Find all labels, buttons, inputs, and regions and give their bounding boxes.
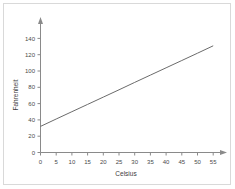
y-tick-label: 140 <box>25 36 36 42</box>
y-axis-arrow-icon <box>38 17 43 24</box>
y-tick-label: 20 <box>28 133 35 139</box>
x-axis <box>41 150 228 155</box>
y-tick-label: 40 <box>28 117 35 123</box>
x-tick-label: 5 <box>55 159 59 165</box>
y-tick-labels: 0 20 40 60 80 100 120 140 <box>25 36 36 156</box>
y-tick-label: 60 <box>28 101 35 107</box>
x-tick-label: 35 <box>147 159 154 165</box>
y-tick-label: 80 <box>28 84 35 90</box>
x-tick-label: 30 <box>131 159 138 165</box>
x-tick-label: 25 <box>116 159 123 165</box>
y-tick-label: 100 <box>25 68 36 74</box>
x-axis-arrow-icon <box>220 150 227 155</box>
y-axis <box>38 17 43 153</box>
y-axis-title: Fahrenheit <box>12 79 19 110</box>
x-tick-label: 40 <box>163 159 170 165</box>
x-tick-label: 0 <box>39 159 43 165</box>
x-tick-label: 55 <box>210 159 217 165</box>
x-tick-label: 20 <box>100 159 107 165</box>
x-tick-label: 50 <box>194 159 201 165</box>
series-line-celsius-to-fahrenheit <box>41 46 214 127</box>
x-axis-title: Celsius <box>115 170 137 177</box>
y-tick-label: 120 <box>25 52 36 58</box>
x-tick-label: 15 <box>84 159 91 165</box>
x-tick-labels: 0 5 10 15 20 25 30 35 40 45 50 55 <box>39 159 217 165</box>
y-tick-label: 0 <box>32 150 36 156</box>
chart-plot-area: 0 20 40 60 80 100 120 140 0 5 <box>0 0 235 189</box>
x-tick-label: 45 <box>178 159 185 165</box>
chart-figure: 0 20 40 60 80 100 120 140 0 5 <box>0 0 235 189</box>
x-tick-label: 10 <box>69 159 76 165</box>
